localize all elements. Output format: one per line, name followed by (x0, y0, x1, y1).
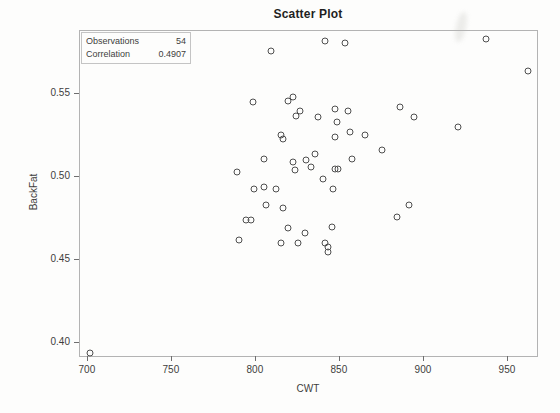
data-point-marker (289, 158, 296, 165)
data-point-marker (331, 134, 338, 141)
data-point-marker (289, 94, 296, 101)
chart-title: Scatter Plot (79, 7, 537, 21)
data-point-marker (325, 248, 332, 255)
data-point-marker (321, 37, 328, 44)
x-axis-title: CWT (79, 383, 537, 394)
data-point-marker (279, 205, 286, 212)
observations-value: 54 (176, 35, 186, 48)
data-point-marker (296, 107, 303, 114)
data-point-marker (279, 135, 286, 142)
data-point-marker (262, 202, 269, 209)
data-point-marker (291, 167, 298, 174)
y-tick-label: 0.45 (30, 253, 70, 264)
data-point-marker (330, 185, 337, 192)
x-tick-mark (423, 356, 424, 361)
data-point-marker (394, 213, 401, 220)
data-point-marker (328, 223, 335, 230)
data-point-marker (362, 132, 369, 139)
data-point-marker (525, 67, 532, 74)
y-tick-mark (74, 93, 79, 94)
x-tick-label: 900 (415, 364, 432, 375)
data-point-marker (397, 104, 404, 111)
data-point-marker (331, 105, 338, 112)
data-point-marker (294, 240, 301, 247)
x-tick-mark (507, 356, 508, 361)
x-tick-mark (87, 356, 88, 361)
y-tick-mark (74, 342, 79, 343)
scatter-plot-figure: Scatter Plot Observations 54 Correlation… (0, 0, 560, 413)
data-point-marker (320, 175, 327, 182)
data-point-marker (311, 150, 318, 157)
data-point-marker (405, 202, 412, 209)
data-point-marker (268, 47, 275, 54)
data-point-marker (333, 119, 340, 126)
data-point-marker (273, 185, 280, 192)
stats-inset-box: Observations 54 Correlation 0.4907 (81, 32, 191, 64)
y-tick-mark (74, 259, 79, 260)
data-point-marker (348, 155, 355, 162)
data-point-marker (261, 155, 268, 162)
stats-row-correlation: Correlation 0.4907 (86, 48, 186, 61)
x-tick-mark (255, 356, 256, 361)
data-point-marker (341, 39, 348, 46)
x-tick-label: 850 (331, 364, 348, 375)
data-point-marker (301, 230, 308, 237)
x-tick-label: 950 (499, 364, 516, 375)
data-point-marker (410, 114, 417, 121)
y-tick-label: 0.55 (30, 87, 70, 98)
x-tick-mark (171, 356, 172, 361)
correlation-value: 0.4907 (158, 48, 186, 61)
data-point-marker (483, 36, 490, 43)
x-tick-label: 750 (163, 364, 180, 375)
data-point-marker (308, 163, 315, 170)
y-tick-label: 0.50 (30, 170, 70, 181)
data-point-marker (278, 240, 285, 247)
stats-row-observations: Observations 54 (86, 35, 186, 48)
data-point-marker (247, 217, 254, 224)
data-point-marker (251, 185, 258, 192)
data-point-marker (249, 99, 256, 106)
y-tick-label: 0.40 (30, 336, 70, 347)
data-point-marker (378, 147, 385, 154)
x-tick-mark (339, 356, 340, 361)
data-point-marker (284, 225, 291, 232)
data-point-marker (303, 157, 310, 164)
data-point-marker (236, 236, 243, 243)
data-point-marker (346, 129, 353, 136)
observations-label: Observations (86, 35, 139, 48)
data-point-marker (261, 183, 268, 190)
correlation-label: Correlation (86, 48, 130, 61)
data-point-marker (454, 124, 461, 131)
x-tick-label: 700 (79, 364, 96, 375)
data-point-marker (234, 168, 241, 175)
data-point-marker (345, 107, 352, 114)
plot-area (79, 30, 538, 357)
x-tick-label: 800 (247, 364, 264, 375)
data-point-marker (315, 114, 322, 121)
data-point-marker (335, 165, 342, 172)
y-tick-mark (74, 176, 79, 177)
